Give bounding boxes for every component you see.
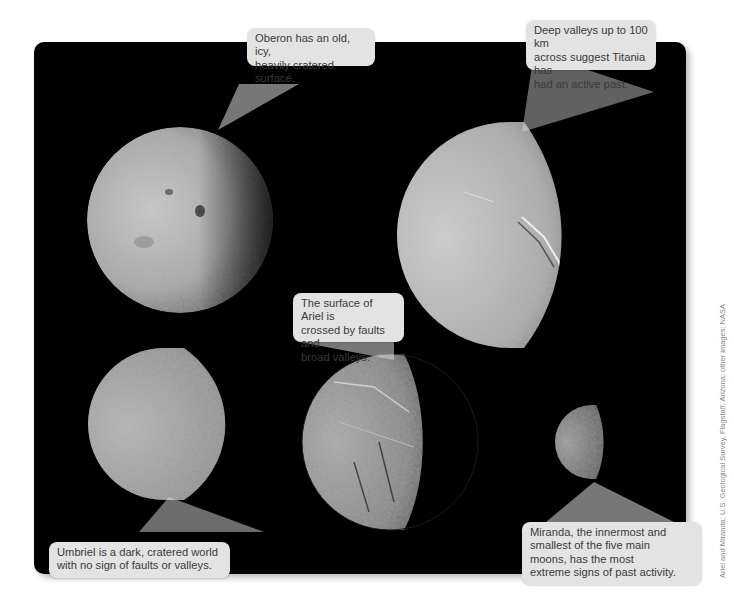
ariel-moon xyxy=(294,342,434,542)
ariel-caption-line: crossed by faults and xyxy=(301,324,396,351)
titania-moon xyxy=(384,112,584,362)
umbriel-moon xyxy=(74,342,254,512)
oberon-moon xyxy=(87,122,284,322)
miranda-caption-line: smallest of the five main xyxy=(530,539,694,552)
miranda-caption-line: extreme signs of past activity. xyxy=(530,566,694,579)
titania-caption-line: across suggest Titania has xyxy=(534,51,648,78)
titania-callout: Deep valleys up to 100 km across suggest… xyxy=(526,20,656,70)
umbriel-callout-pointer xyxy=(139,497,264,532)
umbriel-callout: Umbriel is a dark, cratered world with n… xyxy=(49,542,230,578)
miranda-caption-line: Miranda, the innermost and xyxy=(530,526,694,539)
miranda-moon xyxy=(549,402,609,482)
image-credit: Ariel and Miranda: U.S. Geological Surve… xyxy=(718,304,727,578)
umbriel-caption-line: with no sign of faults or valleys. xyxy=(57,559,222,572)
ariel-callout: The surface of Ariel is crossed by fault… xyxy=(293,293,404,342)
oberon-callout-pointer xyxy=(218,84,299,130)
oberon-caption-line: heavily cratered surface. xyxy=(255,59,367,86)
titania-caption-line: Deep valleys up to 100 km xyxy=(534,24,648,51)
umbriel-caption-line: Umbriel is a dark, cratered world xyxy=(57,546,222,559)
oberon-caption-line: Oberon has an old, icy, xyxy=(255,32,367,59)
oberon-callout: Oberon has an old, icy, heavily cratered… xyxy=(247,28,375,66)
miranda-caption-line: moons, has the most xyxy=(530,553,694,566)
ariel-caption-line: broad valleys. xyxy=(301,351,396,364)
miranda-callout: Miranda, the innermost and smallest of t… xyxy=(522,522,702,585)
titania-caption-line: had an active past. xyxy=(534,78,648,91)
ariel-caption-line: The surface of Ariel is xyxy=(301,297,396,324)
